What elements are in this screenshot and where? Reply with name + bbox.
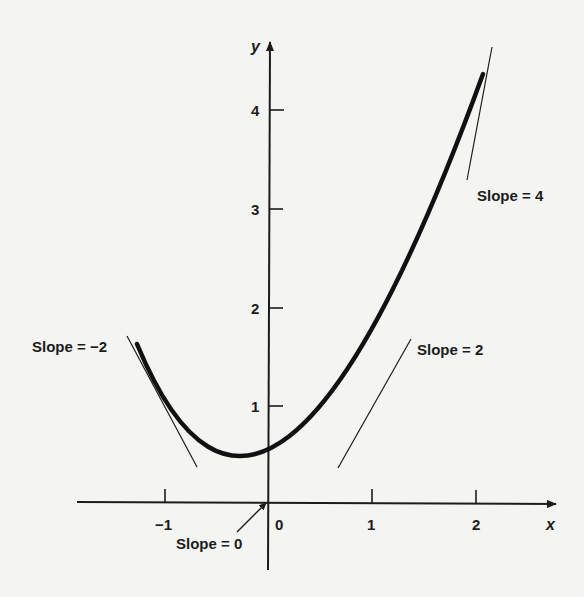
y-axis-label: y xyxy=(250,38,261,55)
x-axis xyxy=(77,502,556,504)
y-tick-label-2: 2 xyxy=(251,300,259,317)
tangent-line-slope-2 xyxy=(338,339,411,468)
y-tick-label-3: 3 xyxy=(251,201,259,218)
annotation-slope-2: Slope = 2 xyxy=(417,341,483,358)
y-ticks xyxy=(269,110,284,406)
parabola-diagram: −1 0 1 2 1 2 3 4 x y Slope = −2 Slope = … xyxy=(0,0,584,597)
annotation-slope-neg2: Slope = −2 xyxy=(32,338,107,355)
tangent-line-slope-neg2 xyxy=(127,336,197,467)
y-axis xyxy=(268,42,270,570)
x-tick-label-0: 0 xyxy=(275,516,283,533)
x-axis-label: x xyxy=(545,516,556,533)
x-tick-label-1: 1 xyxy=(367,516,375,533)
annotation-slope-4: Slope = 4 xyxy=(477,187,544,204)
annotation-slope-0: Slope = 0 xyxy=(176,535,242,552)
y-tick-label-4: 4 xyxy=(251,102,260,119)
x-tick-label-neg1: −1 xyxy=(155,516,172,533)
x-tick-label-2: 2 xyxy=(472,516,480,533)
y-tick-label-1: 1 xyxy=(251,398,259,415)
parabola-curve xyxy=(137,74,483,456)
slope-zero-pointer-arrow xyxy=(237,503,266,532)
